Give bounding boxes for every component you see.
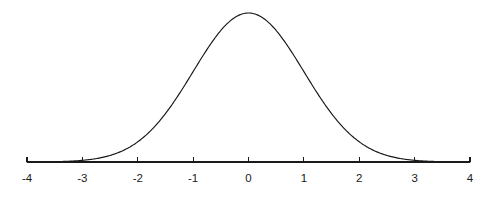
x-axis-tick-label: 1 xyxy=(301,172,307,184)
x-axis-tick-label: 0 xyxy=(245,172,251,184)
x-axis-tick-label: -2 xyxy=(133,172,143,184)
x-axis-tick-label: 4 xyxy=(467,172,474,184)
x-axis-tick-label: -4 xyxy=(22,172,33,184)
x-axis-tick-label: 3 xyxy=(411,172,417,184)
x-axis-tick-label: 2 xyxy=(356,172,362,184)
x-axis-tick-label: -3 xyxy=(77,172,87,184)
plot-canvas: -4-3-2-101234 xyxy=(0,0,497,197)
plot-background xyxy=(0,0,497,197)
normal-distribution-figure: -4-3-2-101234 xyxy=(0,0,497,197)
x-axis-tick-label: -1 xyxy=(188,172,198,184)
